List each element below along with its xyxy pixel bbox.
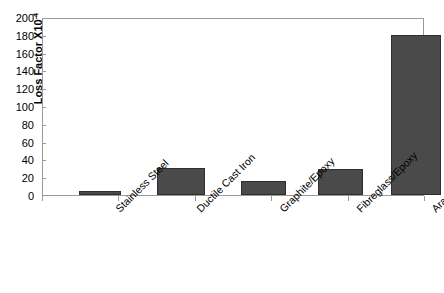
y-axis-tick-label: 80 (22, 119, 34, 130)
y-axis-tick-mark (42, 89, 46, 90)
y-axis-tick-label: 60 (22, 137, 34, 148)
y-axis-tick-label: 40 (22, 155, 34, 166)
bar (157, 168, 205, 195)
y-axis-tick-mark (42, 36, 46, 37)
x-axis-tick-mark (195, 196, 196, 201)
bar-chart-figure: 200180160140120100806040200 Loss Factor … (0, 0, 444, 293)
y-axis-tick-label: 20 (22, 173, 34, 184)
x-axis-category-label: Aramid/Epoxy (429, 206, 437, 214)
x-axis-category-label: Fibreglass/Epoxy (354, 206, 362, 214)
x-axis-category-label: Stainless Steel (113, 206, 121, 214)
y-axis-tick-mark (42, 160, 46, 161)
bar (79, 191, 121, 195)
y-axis-tick-mark (42, 178, 46, 179)
y-axis-tick-label: 0 (28, 191, 34, 202)
bar (241, 181, 286, 195)
y-axis-tick-mark (42, 107, 46, 108)
y-axis-title-superscript: -4 (32, 13, 39, 19)
y-axis-tick-mark (42, 54, 46, 55)
x-axis-category-label: Ductile Cast Iron (194, 206, 202, 214)
x-axis-tick-mark (424, 196, 425, 201)
y-axis-tick-mark (42, 143, 46, 144)
x-axis-tick-mark (271, 196, 272, 201)
y-axis-tick-mark (42, 71, 46, 72)
x-axis-tick-mark (42, 196, 43, 201)
y-axis-tick-mark (42, 125, 46, 126)
x-axis-category-label: Graphite/Epoxy (277, 206, 285, 214)
x-axis-tick-mark (348, 196, 349, 201)
